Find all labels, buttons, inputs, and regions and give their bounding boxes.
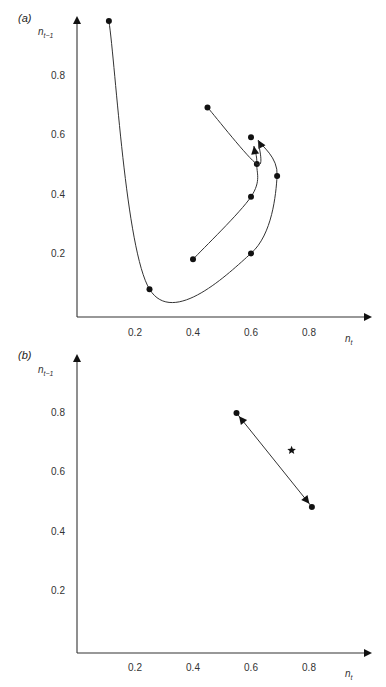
- x-tick-label: 0.6: [244, 662, 258, 673]
- y-tick-label: 0.6: [51, 129, 65, 140]
- y-tick-label: 0.4: [51, 189, 65, 200]
- y-tick-label: 0.2: [51, 585, 65, 596]
- x-axis-label: nt: [345, 333, 354, 346]
- panel-a: (a)nt−1nt0.20.40.60.80.20.40.60.8: [18, 12, 372, 346]
- y-axis-arrow-icon: [73, 354, 81, 362]
- x-axis-arrow-icon: [364, 649, 372, 657]
- x-tick-label: 0.2: [128, 327, 142, 338]
- panel-b: (b)nt−1nt0.20.40.60.80.20.40.60.8: [18, 349, 372, 681]
- y-tick-label: 0.2: [51, 248, 65, 259]
- x-axis-label-subscript: t: [351, 674, 354, 681]
- x-axis-arrow-icon: [364, 313, 372, 321]
- x-tick-label: 0.2: [128, 662, 142, 673]
- y-axis-label-subscript: t−1: [44, 32, 54, 39]
- x-tick-label: 0.4: [186, 327, 200, 338]
- data-point: [190, 256, 196, 262]
- x-axis-label-subscript: t: [351, 339, 354, 346]
- data-point: [106, 18, 112, 24]
- y-axis-arrow-icon: [73, 16, 81, 24]
- data-point: [248, 194, 254, 200]
- x-tick-label: 0.8: [302, 662, 316, 673]
- arrow-icon: [251, 146, 259, 155]
- data-point: [248, 134, 254, 140]
- data-point: [309, 504, 315, 510]
- y-axis-label: nt−1: [38, 364, 54, 377]
- y-tick-label: 0.8: [51, 407, 65, 418]
- data-point: [234, 410, 240, 416]
- y-tick-label: 0.4: [51, 526, 65, 537]
- x-axis-label: nt: [345, 668, 354, 681]
- figure: (a)nt−1nt0.20.40.60.80.20.40.60.8 (b)nt−…: [0, 0, 386, 687]
- data-point: [274, 173, 280, 179]
- arrow-icon: [301, 495, 309, 504]
- data-point: [205, 104, 211, 110]
- arrow-icon: [239, 416, 247, 425]
- y-tick-label: 0.8: [51, 70, 65, 81]
- x-tick-label: 0.8: [302, 327, 316, 338]
- data-point: [147, 286, 153, 292]
- data-point: [248, 250, 254, 256]
- series-line-two-cycle: [237, 413, 312, 507]
- x-tick-label: 0.4: [186, 662, 200, 673]
- panel-label: (a): [18, 12, 32, 24]
- y-axis-label: nt−1: [38, 26, 54, 39]
- y-axis-label-subscript: t−1: [44, 370, 54, 377]
- star-icon: [287, 446, 296, 454]
- y-tick-label: 0.6: [51, 466, 65, 477]
- x-tick-label: 0.6: [244, 327, 258, 338]
- series-line-trajectory-2: [193, 146, 258, 259]
- panel-label: (b): [18, 349, 32, 361]
